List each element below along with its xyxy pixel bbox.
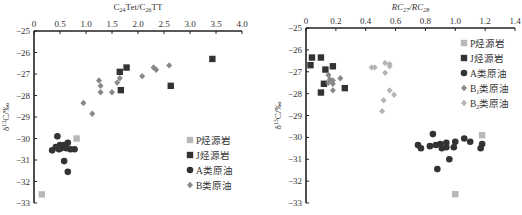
- x-tick-label: 0: [32, 19, 37, 29]
- data-point: [452, 191, 458, 197]
- x-tick-label: 0.5: [54, 19, 66, 29]
- data-point: [73, 135, 79, 141]
- data-point: [467, 138, 474, 145]
- data-point: [330, 87, 336, 93]
- x-tick-label: 1.2: [480, 16, 491, 26]
- data-point: [168, 83, 174, 89]
- y-tick-label: −31: [288, 154, 302, 164]
- data-point: [382, 60, 388, 66]
- x-tick-label: 0.2: [330, 16, 341, 26]
- data-point: [446, 156, 453, 163]
- data-point: [387, 87, 393, 93]
- data-point: [209, 56, 215, 62]
- scatter-chart-right: 00.20.40.60.81.01.21.4−25−26−27−28−29−30…: [261, 0, 522, 215]
- figure: 00.51.01.52.02.53.03.54.0−25−26−27−28−29…: [0, 0, 522, 215]
- data-point: [479, 132, 485, 138]
- x-axis-title: RC27/RC28: [391, 2, 430, 13]
- legend-marker: [187, 167, 194, 174]
- data-point: [382, 70, 388, 76]
- data-point: [307, 62, 313, 68]
- data-point: [477, 145, 484, 152]
- y-axis-title: δ13C/‰: [273, 102, 283, 130]
- y-tick-label: −30: [288, 132, 303, 142]
- data-point: [109, 89, 115, 95]
- data-point: [452, 138, 459, 145]
- legend-marker: [187, 152, 193, 158]
- legend-label: P烃源岩: [470, 38, 505, 49]
- data-point: [56, 146, 63, 153]
- data-point: [309, 54, 315, 60]
- data-point: [96, 77, 102, 83]
- x-tick-label: 4.0: [236, 19, 248, 29]
- legend-label: J烃源岩: [196, 150, 230, 161]
- legend-marker: [461, 85, 467, 91]
- x-tick-label: 0: [304, 16, 309, 26]
- legend-marker: [461, 70, 468, 77]
- legend-marker: [461, 40, 467, 46]
- data-point: [166, 62, 172, 68]
- legend-label: B类原油: [196, 180, 232, 191]
- y-tick-label: −27: [288, 67, 303, 77]
- data-point: [330, 63, 336, 69]
- x-tick-label: 0.8: [420, 16, 432, 26]
- x-tick-label: 2.0: [132, 19, 144, 29]
- legend: P烃源岩J烃源岩A类原油B类原油: [187, 135, 233, 191]
- data-point: [89, 111, 95, 117]
- x-tick-label: 3.5: [210, 19, 222, 29]
- x-tick-label: 1.0: [80, 19, 92, 29]
- x-tick-label: 3.0: [184, 19, 196, 29]
- legend-label: P烃源岩: [196, 135, 231, 146]
- y-tick-label: −33: [288, 198, 303, 208]
- legend-marker: [461, 100, 467, 106]
- y-tick-label: −28: [288, 89, 303, 99]
- data-point: [98, 89, 104, 95]
- legend-label: B1类原油: [470, 83, 509, 95]
- data-point: [434, 166, 441, 173]
- data-point: [418, 145, 425, 152]
- data-point: [461, 135, 468, 142]
- legend-marker: [187, 137, 193, 143]
- y-tick-label: −26: [288, 45, 303, 55]
- data-point: [39, 191, 45, 197]
- y-tick-label: −27: [16, 69, 31, 79]
- legend-marker: [461, 55, 467, 61]
- y-tick-label: −32: [16, 177, 30, 187]
- y-tick-label: −30: [16, 134, 31, 144]
- x-tick-label: 1.5: [106, 19, 118, 29]
- y-tick-label: −32: [288, 176, 302, 186]
- y-tick-label: −28: [16, 91, 31, 101]
- legend-label: A类原油: [470, 68, 507, 79]
- legend-label: A类原油: [196, 165, 233, 176]
- data-point: [80, 100, 86, 106]
- data-point: [342, 85, 348, 91]
- data-point: [61, 158, 68, 165]
- data-point: [65, 169, 72, 176]
- data-point: [71, 146, 78, 153]
- data-point: [379, 108, 385, 114]
- y-tick-label: −29: [288, 111, 303, 121]
- x-axis-title: C24Tet/C26TT: [114, 2, 163, 13]
- y-tick-label: −25: [16, 26, 31, 36]
- x-tick-label: 1.0: [450, 16, 462, 26]
- data-point: [321, 81, 327, 87]
- y-tick-label: −26: [16, 48, 31, 58]
- data-point: [123, 64, 129, 70]
- y-tick-label: −31: [16, 155, 30, 165]
- data-point: [117, 69, 123, 75]
- y-tick-label: −33: [16, 198, 31, 208]
- legend-label: B2类原油: [470, 98, 509, 110]
- data-point: [54, 133, 61, 140]
- y-tick-label: −29: [16, 112, 31, 122]
- data-point: [430, 131, 437, 138]
- x-tick-label: 2.5: [158, 19, 170, 29]
- data-point: [322, 66, 328, 72]
- x-tick-label: 0.6: [390, 16, 402, 26]
- data-point: [391, 92, 397, 98]
- data-point: [98, 83, 104, 89]
- data-point: [118, 87, 124, 93]
- x-tick-label: 0.4: [360, 16, 372, 26]
- y-tick-label: −25: [288, 23, 303, 33]
- data-point: [139, 73, 145, 79]
- scatter-chart-left: 00.51.01.52.02.53.03.54.0−25−26−27−28−29…: [0, 0, 261, 215]
- data-point: [443, 144, 450, 151]
